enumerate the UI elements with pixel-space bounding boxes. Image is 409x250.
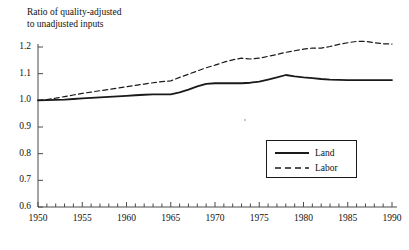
x-tick-label: 1965	[151, 213, 191, 223]
chart-legend: Land Labor	[266, 140, 357, 178]
y-tick-label: 0.9	[5, 121, 31, 131]
data-series-lines	[38, 41, 392, 100]
legend-item-labor: Labor	[267, 161, 358, 175]
x-tick-label: 1950	[18, 213, 58, 223]
y-tick-label: 1.2	[5, 41, 31, 51]
y-tick-label: 0.6	[5, 201, 31, 211]
legend-label-land: Land	[315, 146, 335, 160]
x-tick-label: 1975	[239, 213, 279, 223]
legend-label-labor: Labor	[315, 161, 338, 175]
legend-item-land: Land	[267, 146, 358, 160]
legend-swatch-solid	[275, 152, 309, 154]
y-tick-label: 0.8	[5, 148, 31, 158]
x-tick-label: 1955	[62, 213, 102, 223]
series-line-labor	[38, 41, 392, 100]
x-tick-marks	[38, 202, 392, 207]
axes	[38, 44, 397, 207]
chart-figure: Ratio of quality-adjusted to unadjusted …	[0, 0, 409, 250]
legend-swatch-dashed	[275, 167, 309, 169]
x-tick-label: 1985	[328, 213, 368, 223]
y-tick-label: 0.7	[5, 174, 31, 184]
y-tick-marks	[38, 47, 43, 207]
x-tick-label: 1970	[195, 213, 235, 223]
artifact-speck	[244, 119, 246, 121]
x-tick-label: 1960	[107, 213, 147, 223]
x-tick-label: 1990	[372, 213, 409, 223]
y-tick-label: 1.1	[5, 68, 31, 78]
y-tick-label: 1.0	[5, 94, 31, 104]
x-tick-label: 1980	[284, 213, 324, 223]
series-line-land	[38, 75, 392, 100]
